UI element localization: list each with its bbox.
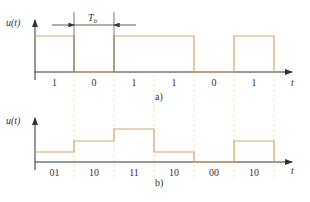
bit-label: 1: [52, 77, 57, 88]
figure-b: u(t) t 011011100010 b): [6, 115, 294, 189]
bit-label: 1: [172, 77, 177, 88]
symbol-label: 01: [50, 167, 60, 178]
bit-label: 0: [212, 77, 217, 88]
bit-label: 0: [92, 77, 97, 88]
symbol-label: 10: [249, 167, 259, 178]
caption-b: b): [155, 177, 163, 189]
symbol-label: 00: [209, 167, 219, 178]
binary-signal-a: [35, 36, 274, 72]
figure-a: u(t) t 101101 a) Tb: [6, 12, 294, 103]
quaternary-signal-b: [35, 129, 274, 162]
x-label-b: t: [291, 165, 294, 176]
y-label-b: u(t): [6, 115, 21, 127]
symbol-label: 10: [169, 167, 179, 178]
bit-label: 1: [252, 77, 257, 88]
bit-label: 1: [132, 77, 137, 88]
waveform-diagram: u(t) t 101101 a) Tb u(t) t 011011100010 …: [0, 0, 310, 202]
symbol-label: 10: [89, 167, 99, 178]
tb-label: Tb: [88, 12, 98, 25]
y-label-a: u(t): [6, 17, 21, 29]
caption-a: a): [155, 91, 163, 103]
x-label-a: t: [291, 77, 294, 88]
symbol-label: 11: [129, 167, 139, 178]
